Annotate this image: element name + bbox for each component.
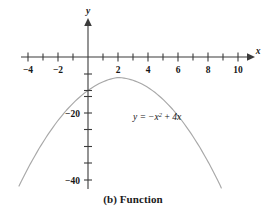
equation-annotation: y=−x2+4x xyxy=(132,111,182,123)
x-tick-label-6: 6 xyxy=(176,65,181,75)
figure-container: −4 −2 2 4 6 8 10 −20 −40 x y y=−x2+4x (b… xyxy=(0,0,266,212)
equation-term1-sign: − xyxy=(149,112,154,122)
x-tick-label-4: 4 xyxy=(146,65,151,75)
x-tick-label-2: 2 xyxy=(116,65,121,75)
parabola-plot: −4 −2 2 4 6 8 10 −20 −40 x y y=−x2+4x xyxy=(0,0,266,196)
equation-term2-sign: + xyxy=(164,112,169,122)
x-tick-label-10: 10 xyxy=(233,65,243,75)
equation-term1-exponent: 2 xyxy=(159,111,163,118)
equation-lhs: y xyxy=(132,112,138,122)
equation-term2: 4x xyxy=(172,112,182,122)
y-axis-arrowhead xyxy=(84,18,92,26)
parabola-curve xyxy=(19,78,221,188)
y-tick-label--20: −20 xyxy=(65,109,80,119)
equation-equals: = xyxy=(140,112,145,122)
figure-caption: (b) Function xyxy=(0,193,266,205)
x-tick-label--4: −4 xyxy=(23,65,33,75)
x-axis-arrowhead xyxy=(247,53,255,61)
y-axis-label: y xyxy=(85,6,91,16)
svg-text:y=−x2+4x: y=−x2+4x xyxy=(132,111,182,123)
x-tick-label-8: 8 xyxy=(206,65,211,75)
x-axis-label: x xyxy=(255,46,261,56)
x-tick-label--2: −2 xyxy=(53,65,63,75)
y-tick-label--40: −40 xyxy=(65,176,80,186)
